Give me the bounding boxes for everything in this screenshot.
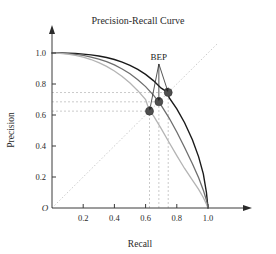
y-tick-label: 0.6 bbox=[35, 110, 46, 120]
origin-label: O bbox=[42, 203, 49, 213]
chart-canvas: Precision-Recall Curve 0.20.40.60.81.00.… bbox=[0, 0, 276, 254]
x-tick-label: 0.2 bbox=[78, 213, 89, 223]
x-axis-label: Recall bbox=[128, 239, 153, 249]
y-tick-label: 0.2 bbox=[35, 172, 46, 182]
bep-annotation-label: BEP bbox=[151, 52, 168, 62]
y-tick-label: 0.8 bbox=[35, 79, 46, 89]
chart-background bbox=[0, 0, 276, 254]
x-tick-label: 0.4 bbox=[109, 213, 120, 223]
chart-title: Precision-Recall Curve bbox=[91, 15, 185, 26]
y-tick-label: 0.4 bbox=[35, 141, 46, 151]
x-tick-label: 1.0 bbox=[203, 213, 214, 223]
x-tick-label: 0.6 bbox=[140, 213, 151, 223]
y-tick-label: 1.0 bbox=[35, 48, 46, 58]
x-tick-label: 0.8 bbox=[171, 213, 182, 223]
y-axis-label: Precision bbox=[6, 112, 16, 148]
precision-recall-chart: Precision-Recall Curve 0.20.40.60.81.00.… bbox=[0, 0, 276, 254]
